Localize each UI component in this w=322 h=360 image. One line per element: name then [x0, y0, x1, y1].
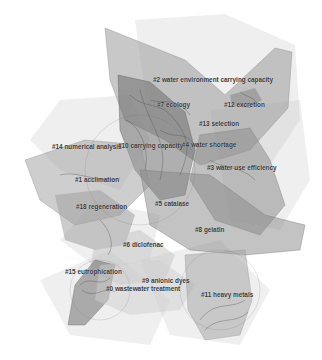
- cluster-label-18[interactable]: #18 regeneration: [76, 203, 127, 210]
- cluster-label-9[interactable]: #9 anionic dyes: [142, 277, 190, 284]
- cluster-label-15[interactable]: #15 eutrophication: [65, 268, 122, 275]
- cluster-label-3[interactable]: #3 water use efficiency: [207, 164, 277, 171]
- cluster-label-12[interactable]: #12 excretion: [224, 101, 265, 108]
- cluster-label-0[interactable]: #0 wastewater treatment: [106, 285, 180, 292]
- cluster-label-10[interactable]: #10 carrying capacity: [118, 142, 183, 149]
- cluster-label-13[interactable]: #13 selection: [199, 120, 239, 127]
- cluster-label-11[interactable]: #11 heavy metals: [201, 291, 253, 298]
- cluster-label-4[interactable]: #4 water shortage: [182, 141, 236, 148]
- cluster-label-7[interactable]: #7 ecology: [157, 101, 190, 108]
- cluster-label-2[interactable]: #2 water environment carrying capacity: [153, 76, 273, 83]
- cluster-label-1[interactable]: #1 acclimation: [75, 176, 119, 183]
- cluster-label-5[interactable]: #5 catalase: [155, 200, 189, 207]
- cluster-label-8[interactable]: #8 gelatin: [195, 226, 224, 233]
- cluster-label-6[interactable]: #6 diclofenac: [123, 241, 164, 248]
- cluster-map-canvas: [0, 0, 322, 360]
- cluster-label-14[interactable]: #14 numerical analysis: [52, 143, 122, 150]
